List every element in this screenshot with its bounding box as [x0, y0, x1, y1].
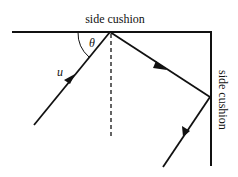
- billiard-reflection-diagram: side cushion side cushion θ u: [0, 0, 238, 177]
- angle-label: θ: [89, 36, 95, 50]
- angle-arc: [78, 32, 89, 57]
- incoming-arrow-icon: [64, 74, 75, 84]
- right-cushion-label: side cushion: [216, 70, 230, 130]
- top-cushion-label: side cushion: [85, 12, 145, 26]
- velocity-label: u: [57, 65, 63, 79]
